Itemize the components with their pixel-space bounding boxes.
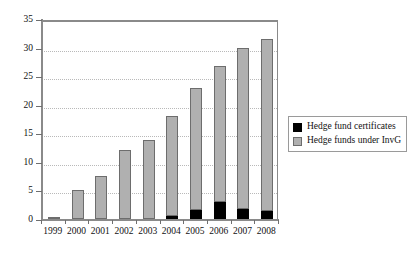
bar-2005 [190,88,202,219]
y-axis-tick-label: 5 [8,186,33,196]
bar-segment-hedge-funds-under-invg [166,116,178,215]
bar-segment-hedge-funds-under-invg [214,66,226,202]
bar-segment-hedge-funds-under-invg [119,150,131,219]
bar-segment-hedge-fund-certificates [237,209,249,219]
x-axis-tick [254,220,255,224]
bar-2007 [237,48,249,219]
bar-2008 [261,39,273,219]
y-axis-tick-label: 30 [8,44,33,54]
y-axis-tick [36,163,42,164]
x-axis-tick [160,220,161,224]
bar-2003 [143,140,155,219]
bar-segment-hedge-funds-under-invg [190,88,202,210]
bar-chart: 05101520253035 1999200020012002200320042… [0,0,414,254]
black-square-icon [293,123,302,132]
y-axis-tick-label: 10 [8,158,33,168]
legend-label: Hedge fund certificates [307,122,396,132]
x-axis-tick [231,220,232,224]
x-axis-tick [183,220,184,224]
y-axis-tick [36,106,42,107]
bar-segment-hedge-funds-under-invg [95,176,107,219]
bar-2001 [95,176,107,219]
y-axis-tick [36,134,42,135]
x-axis-tick [278,220,279,224]
x-axis-tick [41,220,42,224]
chart-legend: Hedge fund certificates Hedge funds unde… [288,116,407,152]
bar-segment-hedge-funds-under-invg [261,39,273,211]
bar-segment-hedge-fund-certificates [214,202,226,219]
bar-2000 [72,190,84,219]
bar-2004 [166,116,178,219]
y-axis-tick [36,77,42,78]
y-axis-tick [36,191,42,192]
legend-item-hedge-funds-under-invg: Hedge funds under InvG [293,134,401,148]
bar-segment-hedge-funds-under-invg [237,48,249,210]
x-axis-tick [65,220,66,224]
y-axis-tick-label: 35 [8,15,33,25]
y-axis-tick [36,20,42,21]
bar-segment-hedge-funds-under-invg [143,140,155,219]
x-axis-tick [88,220,89,224]
bar-segment-hedge-fund-certificates [261,211,273,219]
x-axis-tick [112,220,113,224]
x-axis-tick-label: 2008 [251,227,281,237]
legend-item-hedge-fund-certificates: Hedge fund certificates [293,120,401,134]
x-axis-tick [136,220,137,224]
bar-segment-hedge-funds-under-invg [72,190,84,219]
bar-2006 [214,66,226,219]
x-axis-tick [207,220,208,224]
y-axis-tick-label: 15 [8,129,33,139]
bar-segment-hedge-fund-certificates [190,210,202,219]
y-axis-tick-label: 25 [8,72,33,82]
plot-area [41,20,278,220]
legend-label: Hedge funds under InvG [307,136,401,146]
y-axis-tick [36,49,42,50]
y-axis-tick-label: 0 [8,215,33,225]
bar-2002 [119,150,131,219]
y-axis-tick-label: 20 [8,101,33,111]
gray-square-icon [293,137,302,146]
